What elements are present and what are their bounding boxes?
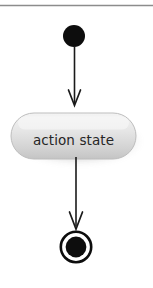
- activity-diagram-canvas: action state: [0, 0, 153, 288]
- action-state-label: action state: [33, 132, 114, 148]
- initial-state-circle: [63, 25, 85, 47]
- action-state-highlight: [18, 117, 129, 130]
- action-state-node[interactable]: action state: [11, 113, 141, 164]
- initial-state-node[interactable]: [63, 25, 85, 47]
- activity-diagram: action state: [0, 0, 153, 288]
- transition-initial-to-action[interactable]: [69, 46, 81, 106]
- transition-action-to-final[interactable]: [70, 157, 83, 229]
- final-state-node[interactable]: [61, 232, 91, 262]
- final-state-inner-disc: [66, 237, 87, 258]
